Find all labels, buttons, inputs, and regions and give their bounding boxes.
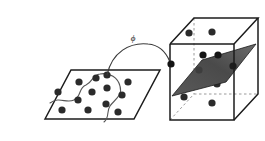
input-dot <box>103 84 110 91</box>
feature-space-group <box>170 18 258 120</box>
input-dot <box>92 74 99 81</box>
feature-dot-on-plane <box>229 62 236 69</box>
phi-label: ϕ <box>131 33 136 43</box>
phi-arrow-target-dot <box>167 60 174 67</box>
input-dot <box>74 96 81 103</box>
input-dot <box>84 106 91 113</box>
input-space-group <box>45 70 160 122</box>
input-dot <box>118 91 125 98</box>
input-dot <box>114 108 121 115</box>
feature-dot-on-plane <box>199 51 206 58</box>
input-dot <box>102 100 109 107</box>
feature-dot-below <box>180 93 187 100</box>
input-dot <box>124 78 131 85</box>
feature-dot-on-plane <box>214 51 221 58</box>
feature-dot-below <box>208 99 215 106</box>
feature-dot-above <box>208 28 215 35</box>
feature-dot-on-plane <box>195 66 202 73</box>
input-dot <box>54 88 61 95</box>
input-dot <box>58 106 65 113</box>
input-dot <box>88 88 95 95</box>
feature-dot-above <box>185 29 192 36</box>
diagram-canvas: ϕ <box>0 0 265 141</box>
input-dot <box>75 78 82 85</box>
kernel-feature-map-figure: ϕ <box>0 0 265 141</box>
